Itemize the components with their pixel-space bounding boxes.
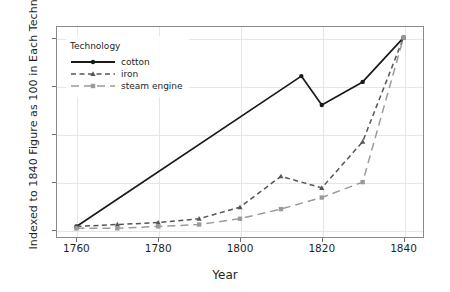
legend-key-icon xyxy=(70,56,116,68)
chart-figure: Indexed to 1840 Figure as 100 in Each Te… xyxy=(0,0,450,292)
chart-legend: Technology cottonironsteam engine xyxy=(66,36,189,97)
data-point-marker xyxy=(360,80,364,84)
x-tick-label: 1840 xyxy=(374,242,434,254)
data-point-marker xyxy=(299,74,303,78)
legend-item-cotton[interactable]: cotton xyxy=(70,56,183,68)
legend-item-iron[interactable]: iron xyxy=(70,68,183,80)
legend-title: Technology xyxy=(70,40,183,53)
data-point-marker xyxy=(237,204,242,209)
data-point-marker xyxy=(320,195,324,199)
x-tick-label: 1800 xyxy=(210,242,270,254)
data-point-marker xyxy=(74,226,78,230)
data-point-marker xyxy=(156,224,160,228)
x-tick-mark xyxy=(158,238,159,242)
x-tick-label: 1820 xyxy=(292,242,352,254)
data-point-marker xyxy=(91,60,95,64)
y-axis-title: Indexed to 1840 Figure as 100 in Each Te… xyxy=(27,0,40,250)
legend-item-steam-engine[interactable]: steam engine xyxy=(70,80,183,92)
data-point-marker xyxy=(320,103,324,107)
x-tick-mark xyxy=(76,238,77,242)
x-tick-label: 1780 xyxy=(128,242,188,254)
x-tick-mark xyxy=(240,238,241,242)
data-point-marker xyxy=(238,217,242,221)
x-axis-title: Year xyxy=(0,268,450,282)
data-point-marker xyxy=(401,35,405,39)
data-point-marker xyxy=(360,139,365,144)
data-point-marker xyxy=(197,222,201,226)
legend-key-icon xyxy=(70,68,116,80)
data-point-marker xyxy=(279,207,283,211)
legend-item-label: steam engine xyxy=(121,80,183,93)
data-point-marker xyxy=(360,180,364,184)
legend-rows: cottonironsteam engine xyxy=(70,56,183,92)
data-point-marker xyxy=(115,226,119,230)
x-tick-label: 1760 xyxy=(46,242,106,254)
data-point-marker xyxy=(278,174,283,179)
data-point-marker xyxy=(91,84,95,88)
x-tick-mark xyxy=(404,238,405,242)
legend-key-icon xyxy=(70,80,116,92)
x-tick-mark xyxy=(322,238,323,242)
